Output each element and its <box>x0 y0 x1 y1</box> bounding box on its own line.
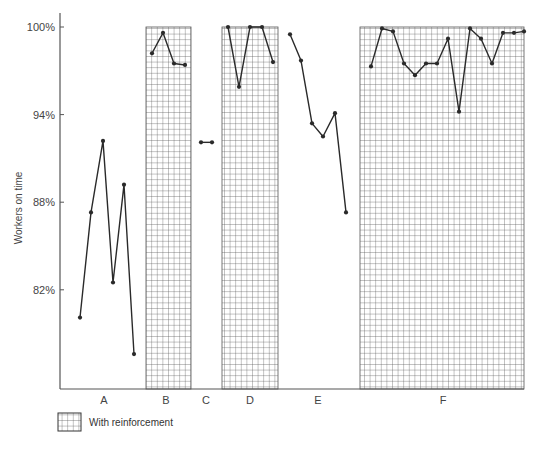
y-tick-label: 88% <box>33 196 55 208</box>
phase-e-line <box>290 34 346 212</box>
data-point <box>310 121 314 125</box>
data-point <box>150 51 154 55</box>
y-tick-label: 100% <box>27 21 55 33</box>
data-point <box>344 210 348 214</box>
data-point <box>446 37 450 41</box>
reinforcement-regions <box>146 27 524 389</box>
phase-labels: ABCDEF <box>100 394 446 406</box>
data-point <box>237 85 241 89</box>
data-point <box>89 210 93 214</box>
data-point <box>122 183 126 187</box>
data-point <box>424 61 428 65</box>
y-axis-title: Workers on time <box>13 171 24 244</box>
data-point <box>369 64 373 68</box>
legend-label: With reinforcement <box>89 417 173 428</box>
data-point <box>490 61 494 65</box>
data-point <box>501 31 505 35</box>
data-point <box>413 73 417 77</box>
data-point <box>391 29 395 33</box>
data-point <box>248 25 252 29</box>
data-point <box>435 61 439 65</box>
y-tick-label: 94% <box>33 109 55 121</box>
phase-label-d: D <box>246 394 254 406</box>
data-point <box>161 31 165 35</box>
data-point <box>210 140 214 144</box>
data-point <box>457 110 461 114</box>
data-point <box>101 139 105 143</box>
data-point <box>468 26 472 30</box>
data-point <box>380 26 384 30</box>
reinforcement-region-d <box>222 27 278 389</box>
data-point <box>522 29 526 33</box>
phase-label-c: C <box>202 394 210 406</box>
data-point <box>402 61 406 65</box>
data-point <box>479 37 483 41</box>
phase-label-e: E <box>314 394 321 406</box>
data-point <box>132 352 136 356</box>
phase-label-b: B <box>162 394 169 406</box>
data-point <box>260 25 264 29</box>
phase-label-a: A <box>100 394 108 406</box>
data-point <box>78 315 82 319</box>
data-point <box>271 60 275 64</box>
y-tick-label: 82% <box>33 284 55 296</box>
data-point <box>288 32 292 36</box>
data-point <box>333 111 337 115</box>
data-point <box>299 58 303 62</box>
reinforcement-region-b <box>146 27 191 389</box>
data-point <box>172 61 176 65</box>
legend-hatch-swatch-icon <box>58 413 81 431</box>
data-point <box>226 25 230 29</box>
phase-label-f: F <box>440 394 447 406</box>
data-point <box>183 63 187 67</box>
phase-a-line <box>80 141 134 354</box>
reinforcement-chart: 100%94%88%82% ABCDEF With reinforcement … <box>0 0 539 450</box>
legend: With reinforcement <box>58 413 173 431</box>
data-point <box>321 134 325 138</box>
reinforcement-region-f <box>360 27 524 389</box>
data-point <box>512 31 516 35</box>
data-point <box>111 280 115 284</box>
data-point <box>199 140 203 144</box>
